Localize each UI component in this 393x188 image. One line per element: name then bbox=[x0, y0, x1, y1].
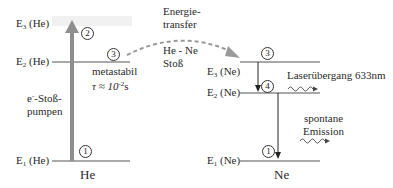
spontaneous-photon-wave-icon bbox=[300, 139, 325, 143]
energy-transfer-arrow-head bbox=[225, 46, 240, 58]
he-e2-label: E2 (He) bbox=[16, 55, 49, 72]
he-ne-collision-label: He - Ne Stoß bbox=[163, 44, 198, 70]
he-marker-3: 3 bbox=[107, 48, 120, 61]
he-marker-1: 1 bbox=[79, 145, 92, 158]
ne-e2-label: E2 (Ne) bbox=[207, 86, 240, 103]
spontaneous-emission-label: spontane Emission bbox=[303, 112, 344, 138]
ne-e1-label: E1 (Ne) bbox=[207, 154, 240, 171]
metastable-label: metastabil τ ≈ 10-2s bbox=[92, 65, 137, 93]
he-title: He bbox=[80, 168, 95, 181]
energy-transfer-label: Energie- transfer bbox=[163, 5, 201, 31]
ne-marker-3: 3 bbox=[261, 47, 274, 60]
ne-marker-1: 1 bbox=[262, 145, 275, 158]
laser-photon-wave-icon bbox=[288, 87, 313, 91]
ne-title: Ne bbox=[274, 168, 289, 181]
e3-he-highlight bbox=[52, 16, 132, 26]
pump-label: e--Stoß- pumpen bbox=[27, 90, 62, 118]
ne-e3-label: E3 (Ne) bbox=[207, 65, 240, 82]
he-e3-label: E3 (He) bbox=[16, 17, 49, 34]
laser-photon-wave-head bbox=[313, 87, 318, 92]
spontaneous-photon-wave-head bbox=[325, 139, 330, 144]
laser-transition-label: Laserübergang 633nm bbox=[287, 69, 385, 82]
spontaneous-transition-arrow-head bbox=[275, 152, 281, 159]
he-e1-label: E1 (He) bbox=[16, 154, 49, 171]
he-marker-2: 2 bbox=[81, 27, 94, 40]
ne-marker-4: 4 bbox=[261, 80, 274, 93]
